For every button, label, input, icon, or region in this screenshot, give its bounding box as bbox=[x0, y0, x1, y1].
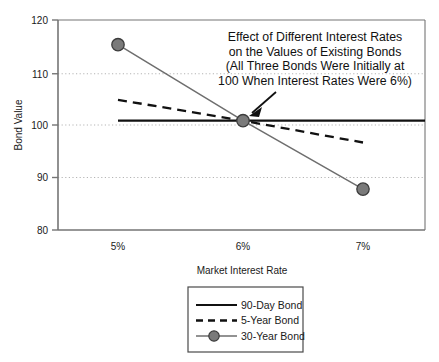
data-point-30-year-6pct bbox=[237, 115, 249, 127]
legend-marker-30-year-bond bbox=[209, 331, 219, 341]
chart-legend[interactable]: 90-Day Bond 5-Year Bond 30-Year Bond bbox=[188, 287, 305, 352]
x-tick-label-7pct: 7% bbox=[356, 241, 371, 252]
chart-canvas: 120 110 100 90 80 5% 6% 7% Market Intere… bbox=[0, 0, 439, 362]
annotation-line-1: Effect of Different Interest Rates bbox=[228, 30, 403, 44]
y-tick-label-110: 110 bbox=[32, 69, 48, 80]
bond-value-chart: 120 110 100 90 80 5% 6% 7% Market Intere… bbox=[0, 0, 439, 362]
legend-item-30-year-bond[interactable]: 30-Year Bond bbox=[196, 330, 305, 342]
legend-label-30-year-bond: 30-Year Bond bbox=[241, 330, 305, 342]
legend-label-5-year-bond: 5-Year Bond bbox=[241, 314, 299, 326]
x-tick-label-6pct: 6% bbox=[236, 241, 251, 252]
annotation-text-block: Effect of Different Interest Rates on th… bbox=[218, 30, 412, 88]
annotation-line-4: 100 When Interest Rates Were 6%) bbox=[218, 74, 412, 88]
legend-label-90-day-bond: 90-Day Bond bbox=[241, 299, 302, 311]
y-axis-title: Bond Value bbox=[13, 99, 24, 150]
y-tick-label-120: 120 bbox=[31, 15, 48, 26]
y-tick-label-80: 80 bbox=[37, 225, 49, 236]
x-axis-title: Market Interest Rate bbox=[197, 265, 288, 276]
y-tick-label-90: 90 bbox=[37, 172, 49, 183]
data-point-30-year-5pct bbox=[112, 39, 124, 51]
data-point-30-year-7pct bbox=[357, 183, 369, 195]
y-tick-label-100: 100 bbox=[31, 120, 48, 131]
y-axis-ticks bbox=[52, 20, 58, 230]
annotation-line-2: on the Values of Existing Bonds bbox=[229, 45, 402, 59]
x-tick-label-5pct: 5% bbox=[111, 241, 126, 252]
annotation-line-3: (All Three Bonds Were Initially at bbox=[226, 59, 405, 73]
